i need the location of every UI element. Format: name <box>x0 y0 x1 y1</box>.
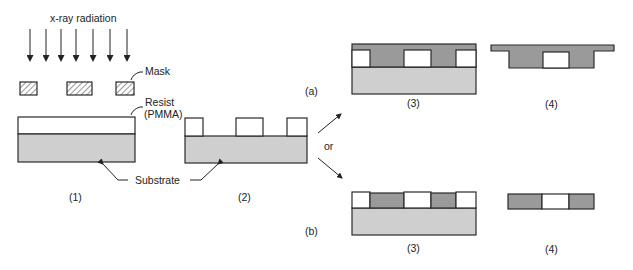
resist-block <box>185 118 203 136</box>
step4a-label: (4) <box>545 98 558 110</box>
mask-blocks <box>20 82 134 95</box>
resist-label-line2: (PMMA) <box>144 108 183 120</box>
cavity <box>543 52 569 68</box>
resist-layer <box>18 117 135 134</box>
branch-b-arrow-icon <box>318 158 342 178</box>
step3a-diagram <box>352 44 476 94</box>
mask-block <box>67 82 92 95</box>
substrate-callout-line-right <box>190 164 218 180</box>
step3a-label: (3) <box>407 97 420 109</box>
substrate-layer <box>352 67 476 94</box>
metal-part <box>508 194 542 209</box>
resist-block <box>456 192 476 208</box>
resist-callout-line <box>131 107 143 115</box>
resist-block <box>287 118 307 136</box>
gap <box>542 194 569 209</box>
step1-diagram <box>18 117 135 162</box>
branch-a-arrow-icon <box>318 114 341 133</box>
mask-block <box>116 82 134 95</box>
deposited-metal <box>370 193 404 208</box>
resist-block <box>404 192 431 208</box>
step4a-diagram <box>491 45 614 68</box>
xray-arrows <box>30 29 127 60</box>
radiation-label: x-ray radiation <box>50 12 117 24</box>
substrate-layer <box>185 136 307 163</box>
deposited-metal <box>431 193 456 208</box>
step4b-label: (4) <box>545 243 558 255</box>
step2-label: (2) <box>238 191 251 203</box>
substrate-callout-line-left <box>103 164 128 180</box>
step3b-diagram <box>352 192 476 235</box>
substrate-label: Substrate <box>135 174 180 186</box>
resist-block <box>352 50 370 67</box>
mask-callout-line <box>131 72 143 80</box>
resist-block <box>404 50 431 67</box>
branch-b-label: (b) <box>305 225 318 237</box>
step3b-label: (3) <box>407 242 420 254</box>
mask-block <box>20 82 37 95</box>
resist-block <box>352 192 370 208</box>
or-label: or <box>324 140 334 152</box>
step2-diagram <box>185 118 307 163</box>
branch-a-label: (a) <box>305 85 318 97</box>
substrate-layer <box>352 208 476 235</box>
resist-block <box>236 118 263 136</box>
resist-label-line1: Resist <box>145 96 174 108</box>
substrate-layer <box>18 134 135 162</box>
step1-label: (1) <box>69 191 82 203</box>
step4b-diagram <box>508 194 594 209</box>
metal-part <box>569 194 594 209</box>
mask-label: Mask <box>145 65 171 77</box>
lithography-diagram: x-ray radiation Mask Resist (PMMA) Subst… <box>0 0 633 270</box>
resist-block <box>456 50 476 67</box>
